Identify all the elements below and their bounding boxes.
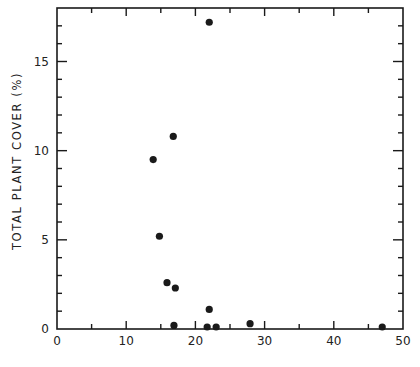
data-point xyxy=(246,320,253,327)
data-point xyxy=(379,323,386,330)
x-tick-label: 30 xyxy=(257,334,272,348)
y-tick-label: 0 xyxy=(41,322,49,336)
x-tick-label: 0 xyxy=(53,334,61,348)
y-tick-label: 15 xyxy=(34,55,49,69)
data-point xyxy=(213,323,220,330)
data-point xyxy=(150,156,157,163)
data-point xyxy=(206,19,213,26)
data-point xyxy=(156,233,163,240)
plot-border xyxy=(57,8,403,329)
data-point xyxy=(206,306,213,313)
y-tick-label: 10 xyxy=(34,144,49,158)
axis-ticks xyxy=(57,8,403,329)
data-point xyxy=(163,279,170,286)
data-point xyxy=(172,284,179,291)
data-point xyxy=(204,323,211,330)
x-tick-label: 10 xyxy=(119,334,134,348)
data-point xyxy=(170,133,177,140)
axis-tick-labels: 01020304050051015 xyxy=(34,55,411,349)
data-point xyxy=(170,322,177,329)
x-tick-label: 50 xyxy=(395,334,410,348)
scatter-chart: 01020304050051015 TOTAL PLANT COVER (%) xyxy=(0,0,420,367)
x-tick-label: 40 xyxy=(326,334,341,348)
y-axis-title: TOTAL PLANT COVER (%) xyxy=(10,72,24,251)
data-points xyxy=(150,19,386,331)
y-tick-label: 5 xyxy=(41,233,49,247)
x-tick-label: 20 xyxy=(188,334,203,348)
plot-frame xyxy=(57,8,403,329)
